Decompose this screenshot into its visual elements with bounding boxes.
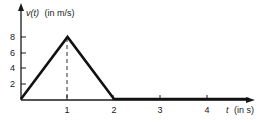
y-axis-label: v(t) (in m/s) <box>26 8 75 18</box>
y-axis: 8 6 4 2 v(t) (in m/s) <box>10 3 75 100</box>
x-axis-label: t (in s) <box>226 105 254 115</box>
x-tick-label: 1 <box>64 105 69 115</box>
y-axis-unit: (in m/s) <box>45 8 75 18</box>
velocity-series-line <box>21 37 249 99</box>
y-tick-label: 8 <box>10 32 15 42</box>
x-tick-label: 2 <box>111 105 116 115</box>
y-tick-label: 2 <box>10 79 15 89</box>
x-tick-label: 3 <box>157 105 162 115</box>
y-tick-label: 6 <box>10 48 15 58</box>
x-tick-label: 4 <box>204 105 209 115</box>
x-axis-variable: t <box>226 105 229 115</box>
x-axis-unit: (in s) <box>234 105 254 115</box>
y-axis-arrow-icon <box>18 3 24 11</box>
y-axis-variable: v(t) <box>26 8 39 18</box>
y-tick-label: 4 <box>10 63 15 73</box>
velocity-chart: 8 6 4 2 v(t) (in m/s) 1 2 3 4 t (in s) <box>0 0 267 122</box>
